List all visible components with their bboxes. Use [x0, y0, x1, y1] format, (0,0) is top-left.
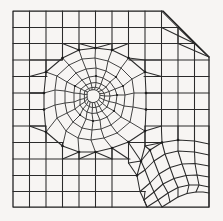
mesh-figure: Finite element mesh of a square domain w… [0, 0, 223, 221]
mesh-canvas: Finite element mesh of a square domain w… [0, 0, 223, 221]
